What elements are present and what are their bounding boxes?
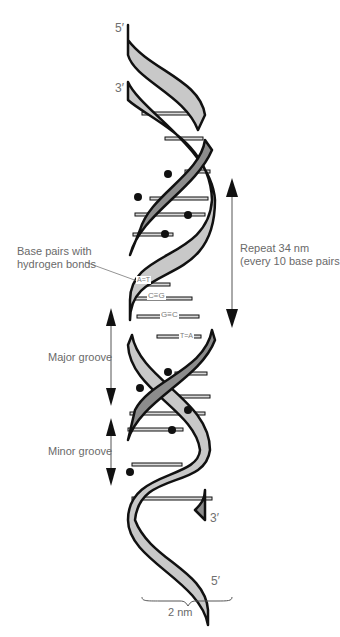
repeat-label-line2: (every 10 base pairs [240, 255, 340, 268]
base-pair-ta: T=A [179, 332, 194, 340]
base-pairs-label-line1: Base pairs with [17, 245, 92, 258]
base-pair-at: A=T [136, 276, 151, 284]
repeat-label-line1: Repeat 34 nm [240, 242, 309, 255]
width-label: 2 nm [168, 606, 192, 619]
top-3prime-label: 3′ [115, 82, 124, 95]
bottom-5prime-label: 5′ [211, 575, 220, 588]
minor-groove-label: Minor groove [48, 445, 112, 458]
base-pair-cg: C≡G [147, 292, 166, 300]
width-brace [142, 597, 232, 606]
top-5prime-label: 5′ [115, 22, 124, 35]
bottom-3prime-label: 3′ [210, 512, 219, 525]
base-pair-gc: G≡C [160, 311, 179, 319]
major-groove-label: Major groove [48, 351, 112, 364]
base-pairs-label-line2: hydrogen bonds [17, 258, 96, 271]
repeat-arrow [226, 178, 238, 328]
